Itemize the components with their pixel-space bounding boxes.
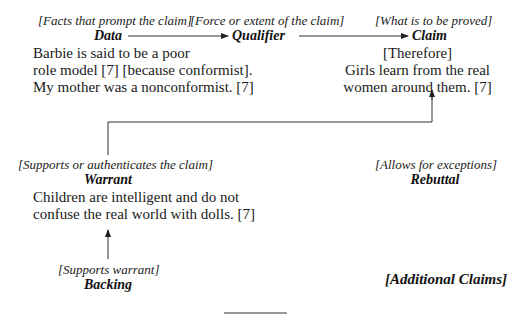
data-text: Barbie is said to be a poor role model [… [33, 45, 254, 96]
data-label: Data [78, 28, 138, 44]
claim-label: Claim [412, 28, 447, 44]
backing-label: Backing [78, 277, 138, 293]
warrant-text-line: confuse the real world with dolls. [7] [33, 206, 255, 223]
warrant-text-line: Children are intelligent and do not [33, 189, 255, 206]
claim-text-line: Girls learn from the real [340, 62, 495, 79]
data-text-line: role model [7] [because conformist]. [33, 62, 254, 79]
warrant-label: Warrant [78, 172, 138, 188]
claim-text: [Therefore] Girls learn from the real wo… [340, 45, 495, 96]
claim-hint: [What is to be proved] [375, 13, 490, 29]
data-text-line: Barbie is said to be a poor [33, 45, 254, 62]
warrant-hint: [Supports or authenticates the claim] [18, 157, 198, 173]
backing-hint: [Supports warrant] [58, 262, 158, 278]
connector-warrant-to-claim [108, 94, 432, 155]
warrant-text: Children are intelligent and do not conf… [33, 189, 255, 223]
qualifier-hint: [Force or extent of the claim] [190, 13, 340, 29]
additional-claims-label: [Additional Claims] [385, 271, 507, 288]
claim-text-line: [Therefore] [340, 45, 495, 62]
data-hint: [Facts that prompt the claim] [38, 13, 178, 29]
rebuttal-label: Rebuttal [400, 172, 470, 188]
rebuttal-hint: [Allows for exceptions] [375, 157, 495, 173]
claim-text-line: women around them. [7] [340, 79, 495, 96]
qualifier-label: Qualifier [232, 28, 285, 44]
data-text-line: My mother was a nonconformist. [7] [33, 79, 254, 96]
